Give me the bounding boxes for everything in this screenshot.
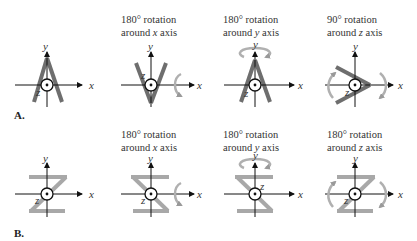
svg-text:x: x (88, 188, 94, 200)
svg-text:x: x (196, 188, 202, 200)
svg-text:y: y (42, 152, 48, 164)
svg-text:x: x (196, 79, 202, 91)
y-axis-label: y (42, 40, 48, 52)
svg-text:y: y (147, 152, 153, 164)
svg-text:y: y (352, 40, 358, 52)
panel-a-rot-x: x y z (121, 40, 202, 107)
panel-b-rot-y: x y z (224, 149, 303, 217)
panel-a-rot-y: x y z (224, 38, 303, 107)
z-axis-label: z (35, 86, 41, 98)
svg-text:z: z (259, 180, 265, 192)
panel-b-original: x y z (15, 152, 94, 217)
panel-a-rot-z: x y z (325, 40, 403, 107)
x-axis-label: x (88, 79, 94, 91)
svg-text:y: y (252, 38, 258, 50)
panel-b-rot-z: x y z (325, 152, 403, 217)
svg-text:z: z (343, 194, 349, 206)
svg-text:x: x (397, 188, 403, 200)
svg-text:z: z (344, 86, 350, 98)
svg-text:z: z (140, 194, 146, 206)
rotation-diagram: x y z x y z x y z x (0, 0, 417, 241)
svg-text:y: y (252, 149, 258, 161)
panel-b-rot-x: x y z (121, 152, 202, 217)
svg-text:y: y (147, 40, 153, 52)
svg-text:z: z (243, 87, 249, 99)
svg-text:x: x (297, 188, 303, 200)
svg-text:z: z (34, 194, 40, 206)
svg-text:z: z (140, 69, 146, 81)
panel-a-original: x y z (15, 40, 94, 107)
svg-text:y: y (352, 152, 358, 164)
svg-text:x: x (397, 79, 403, 91)
svg-text:x: x (297, 79, 303, 91)
